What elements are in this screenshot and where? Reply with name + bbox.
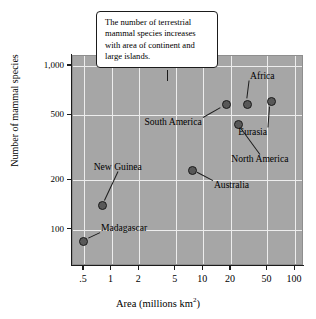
y-axis-line <box>71 54 72 266</box>
x-axis-tick-label: 5 <box>172 273 177 284</box>
y-axis-tick-label: 200 <box>51 174 65 184</box>
x-axis-tick-label: 1 <box>108 273 113 284</box>
data-point-label: Eurasia <box>238 126 267 137</box>
annotation-line-4: large islands. <box>105 51 210 62</box>
data-point-marker <box>79 237 88 246</box>
data-point-label: Africa <box>250 70 275 81</box>
y-axis-title: Number of mammal species <box>9 11 20 211</box>
y-axis-tick <box>67 228 72 229</box>
y-axis-tick-label: 1,000 <box>44 60 64 70</box>
x-axis-tick-label: .5 <box>79 273 87 284</box>
x-axis-title-text: Area (millions km <box>116 298 193 309</box>
gridline-vertical <box>84 56 85 264</box>
gridline-vertical <box>176 56 177 264</box>
annotation-line-1: The number of terrestrial <box>105 17 210 28</box>
annotation-callout: The number of terrestrial mammal species… <box>96 11 218 68</box>
x-axis-tick-label: 2 <box>136 273 141 284</box>
data-point-marker <box>98 201 107 210</box>
x-axis-tick-label: 50 <box>261 273 271 284</box>
scatter-chart-figure: Number of mammal species Area (millions … <box>0 0 316 319</box>
x-axis-tick <box>138 265 139 270</box>
x-axis-tick <box>294 265 295 270</box>
data-point-label: New Guinea <box>94 161 142 172</box>
data-point-label: Australia <box>214 179 249 190</box>
y-axis-tick <box>67 114 72 115</box>
data-point-label: South America <box>144 116 201 127</box>
x-axis-tick <box>229 265 230 270</box>
data-point-marker <box>267 97 276 106</box>
x-axis-tick <box>202 265 203 270</box>
gridline-vertical <box>295 56 296 264</box>
x-axis-tick-label: 100 <box>287 273 302 284</box>
x-axis-title: Area (millions km2) <box>0 296 316 309</box>
gridline-horizontal <box>73 180 302 181</box>
y-axis-tick-label: 500 <box>51 109 65 119</box>
gridline-vertical <box>203 56 204 264</box>
y-axis-tick <box>67 64 72 65</box>
annotation-line-2: mammal species increases <box>105 28 210 39</box>
x-axis-title-tail: ) <box>197 298 201 309</box>
x-axis-tick-label: 20 <box>225 273 235 284</box>
annotation-line-3: with area of continent and <box>105 40 210 51</box>
data-point-marker <box>222 100 231 109</box>
x-axis-line <box>71 265 304 266</box>
data-point-marker <box>243 100 252 109</box>
callout-tail <box>167 70 168 81</box>
data-point-label: Madagascar <box>101 222 147 233</box>
x-axis-tick <box>82 265 83 270</box>
x-axis-tick-label: 10 <box>197 273 207 284</box>
x-axis-tick <box>110 265 111 270</box>
x-axis-tick <box>174 265 175 270</box>
data-point-marker <box>188 166 197 175</box>
x-axis-tick <box>266 265 267 270</box>
data-point-label: North America <box>231 153 288 164</box>
y-axis-tick <box>67 179 72 180</box>
y-axis-tick-label: 100 <box>51 224 65 234</box>
